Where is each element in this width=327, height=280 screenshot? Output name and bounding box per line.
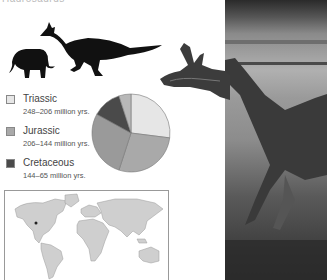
- location-marker-icon: [35, 222, 38, 225]
- world-map-icon: [5, 191, 168, 280]
- dinosaur-head-cutout: [160, 35, 230, 105]
- legend-range: 144–65 million yrs.: [23, 171, 86, 180]
- legend-item-cretaceous: Cretaceous 144–65 million yrs.: [6, 157, 96, 189]
- dinosaur-photo: [225, 0, 327, 280]
- legend-label: Triassic: [23, 93, 57, 104]
- chart-legend: Triassic 248–206 million yrs. Jurassic 2…: [6, 93, 96, 189]
- legend-range: 206–144 million yrs.: [23, 139, 90, 148]
- world-map: [4, 190, 169, 280]
- dinosaur-silhouette-icon: [40, 22, 162, 76]
- jurassic-swatch-icon: [6, 127, 15, 136]
- legend-item-jurassic: Jurassic 206–144 million yrs.: [6, 125, 96, 157]
- elephant-silhouette-icon: [9, 49, 55, 78]
- cretaceous-swatch-icon: [6, 159, 15, 168]
- clipped-header-text: Hadrosaurus: [2, 0, 65, 4]
- legend-item-triassic: Triassic 248–206 million yrs.: [6, 93, 96, 125]
- legend-label: Jurassic: [23, 125, 60, 136]
- legend-label: Cretaceous: [23, 157, 74, 168]
- legend-range: 248–206 million yrs.: [23, 107, 90, 116]
- size-comparison-silhouettes: [0, 20, 175, 85]
- triassic-swatch-icon: [6, 95, 15, 104]
